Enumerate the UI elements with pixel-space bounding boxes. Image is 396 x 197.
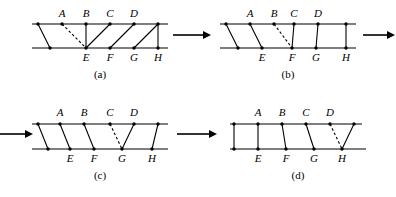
- bottom-label-g: G: [312, 51, 320, 63]
- bottom-node: [232, 147, 235, 150]
- top-node: [36, 22, 39, 25]
- edge-c-f: [86, 24, 110, 48]
- bottom-label-f: F: [288, 51, 296, 63]
- edge-right-h: [342, 124, 354, 149]
- bottom-label-g: G: [118, 152, 126, 164]
- top-node: [224, 22, 227, 25]
- bottom-label-g: G: [310, 152, 318, 164]
- arrow-right-icon: [176, 127, 218, 141]
- top-node-end: [352, 122, 355, 125]
- edge-a-e-dashed: [62, 24, 86, 48]
- top-label-b: B: [271, 7, 278, 19]
- top-node-end: [156, 22, 159, 25]
- bottom-label-g: G: [130, 51, 138, 63]
- bottom-node-g: [120, 147, 123, 150]
- top-label-a: A: [56, 106, 64, 118]
- top-label-c: C: [106, 7, 114, 19]
- bottom-label-h: H: [337, 152, 347, 164]
- panel-caption: (a): [94, 68, 107, 81]
- top-node-d: [132, 22, 135, 25]
- bottom-label-e: E: [254, 152, 262, 164]
- edge-c-g: [306, 124, 314, 149]
- top-node-c: [108, 122, 111, 125]
- top-label-c: C: [106, 106, 114, 118]
- top-node-a: [256, 122, 259, 125]
- bottom-node-e: [256, 147, 259, 150]
- edge-a-e: [60, 124, 70, 149]
- top-node-d: [316, 22, 319, 25]
- edge-b-f: [282, 124, 286, 149]
- top-label-c: C: [302, 106, 310, 118]
- top-label-a: A: [254, 106, 262, 118]
- bottom-node: [48, 46, 51, 49]
- top-label-d: D: [129, 106, 138, 118]
- top-node-d: [132, 122, 135, 125]
- edge-d-h-dashed: [330, 124, 342, 149]
- top-node: [36, 122, 39, 125]
- top-node-a: [248, 22, 251, 25]
- bottom-node-f: [290, 46, 293, 49]
- bottom-label-h: H: [341, 51, 351, 63]
- arrow-right-icon: [362, 28, 396, 42]
- top-node-c: [304, 122, 307, 125]
- edge-d-g: [110, 24, 134, 48]
- edge-right-h: [152, 124, 158, 149]
- bottom-label-e: E: [66, 152, 74, 164]
- edge-left: [38, 24, 50, 48]
- panel-caption: (d): [292, 169, 305, 182]
- panel-c: A B C D E F G H: [28, 105, 178, 185]
- edge-a-e: [250, 24, 262, 48]
- arrow-right-icon: [172, 28, 212, 42]
- bottom-node-e: [68, 147, 71, 150]
- top-node-end: [344, 22, 347, 25]
- top-node-end: [156, 122, 159, 125]
- top-node-b: [84, 22, 87, 25]
- top-node-a: [58, 122, 61, 125]
- bottom-node-g: [314, 46, 317, 49]
- bottom-node-g: [132, 46, 135, 49]
- bottom-node-h: [344, 46, 347, 49]
- bottom-node: [46, 147, 49, 150]
- arrow-head: [209, 130, 217, 138]
- arrow-c-to-d: [176, 127, 218, 145]
- edge-b-f: [84, 124, 94, 149]
- top-label-a: A: [246, 7, 254, 19]
- bottom-label-f: F: [106, 51, 114, 63]
- bottom-node-f: [284, 147, 287, 150]
- panel-a-graphic: A B C D: [28, 6, 178, 84]
- panel-caption: (b): [282, 68, 295, 81]
- bottom-label-f: F: [282, 152, 290, 164]
- panel-c-graphic: A B C D E F G H: [28, 105, 178, 185]
- bottom-node: [236, 46, 239, 49]
- edge-c-f: [292, 24, 294, 48]
- panel-d-graphic: A B C D E F G H: [226, 105, 376, 185]
- edge-b-f-dashed: [274, 24, 292, 48]
- bottom-label-h: H: [147, 152, 157, 164]
- bottom-label-h: H: [153, 51, 163, 63]
- top-node: [232, 122, 235, 125]
- bottom-node-f: [108, 46, 111, 49]
- edge-right-g: [134, 24, 158, 48]
- edge-left: [226, 24, 238, 48]
- arrow-a-to-b: [172, 28, 212, 46]
- panel-d: A B C D E F G H: [226, 105, 376, 185]
- top-label-a: A: [58, 7, 66, 19]
- panel-b-graphic: A B C D E F G H: [216, 6, 366, 84]
- panel-caption: (c): [94, 169, 107, 182]
- panel-a: A B C D: [28, 6, 178, 84]
- arrow-head: [387, 31, 395, 39]
- arrow-head: [203, 31, 211, 39]
- top-label-b: B: [279, 106, 286, 118]
- bottom-node-h: [340, 147, 343, 150]
- bottom-label-e: E: [258, 51, 266, 63]
- bottom-label-e: E: [82, 51, 90, 63]
- top-node-d: [328, 122, 331, 125]
- top-label-c: C: [290, 7, 298, 19]
- bottom-node-e: [260, 46, 263, 49]
- bottom-label-f: F: [90, 152, 98, 164]
- top-label-d: D: [313, 7, 322, 19]
- top-label-d: D: [129, 7, 138, 19]
- top-label-b: B: [81, 106, 88, 118]
- top-node-a: [60, 22, 63, 25]
- top-node-c: [292, 22, 295, 25]
